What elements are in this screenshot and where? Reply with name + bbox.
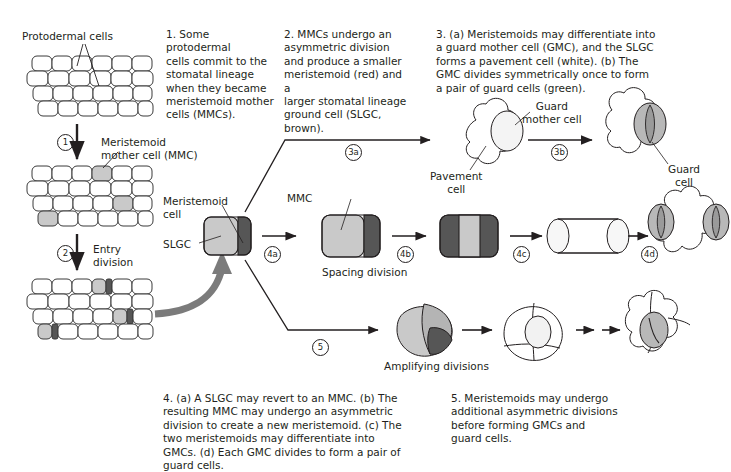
step-marker-2: 2 <box>57 245 74 262</box>
gmc-pair-cylinder <box>547 219 629 253</box>
label-amplifying-divisions: Amplifying divisions <box>384 360 489 373</box>
step-marker-3a: 3a <box>345 144 362 161</box>
protoderm-grid-1 <box>27 56 153 116</box>
label-protodermal-cells: Protodermal cells <box>22 30 113 43</box>
step-marker-1: 1 <box>57 134 74 151</box>
amplifying-meristemoid-1 <box>397 304 452 356</box>
caption-5: 5. Meristemoids may undergo additional a… <box>451 392 631 446</box>
caption-2: 2. MMCs undergo an asymmetric division a… <box>284 28 410 135</box>
caption-4: 4. (a) A SLGC may revert to an MMC. (b) … <box>163 392 435 472</box>
protoderm-grid-3 <box>27 279 153 339</box>
amplifying-meristemoid-2 <box>504 303 562 360</box>
two-meristemoid-cell <box>440 215 498 257</box>
label-mmc: MMC <box>287 192 312 205</box>
step-marker-4b: 4b <box>397 246 414 263</box>
pavement-with-gmc <box>466 98 523 163</box>
step-marker-5: 5 <box>312 339 329 356</box>
label-guard-cell: Guard cell <box>668 163 700 188</box>
protoderm-grid-2 <box>27 166 153 226</box>
label-slgc: SLGC <box>163 238 191 251</box>
step-marker-4a: 4a <box>264 246 281 263</box>
stomata-pair-pavement <box>648 186 729 252</box>
central-meristemoid-slgc-cell <box>204 217 251 255</box>
entry-to-lineage-arrow <box>155 268 222 314</box>
mmc-cell-row <box>322 215 380 257</box>
final-stoma-in-pavement <box>625 290 690 353</box>
label-guard-mother-cell: Guard mother cell <box>522 100 582 125</box>
caption-1: 1. Some protodermal cells commit to the … <box>166 28 276 122</box>
pavement-with-guard-cells <box>606 88 668 164</box>
step-marker-3b: 3b <box>551 144 568 161</box>
step-marker-4c: 4c <box>513 246 530 263</box>
label-pavement-cell: Pavement cell <box>430 170 482 195</box>
caption-3: 3. (a) Meristemoids may differentiate in… <box>436 28 686 95</box>
label-spacing-division: Spacing division <box>322 266 407 279</box>
label-meristemoid-mother-cell: Meristemoid mother cell (MMC) <box>101 136 198 161</box>
label-meristemoid-cell: Meristemoid cell <box>163 195 228 220</box>
label-entry-division: Entry division <box>93 243 133 268</box>
step-marker-4d: 4d <box>641 246 658 263</box>
